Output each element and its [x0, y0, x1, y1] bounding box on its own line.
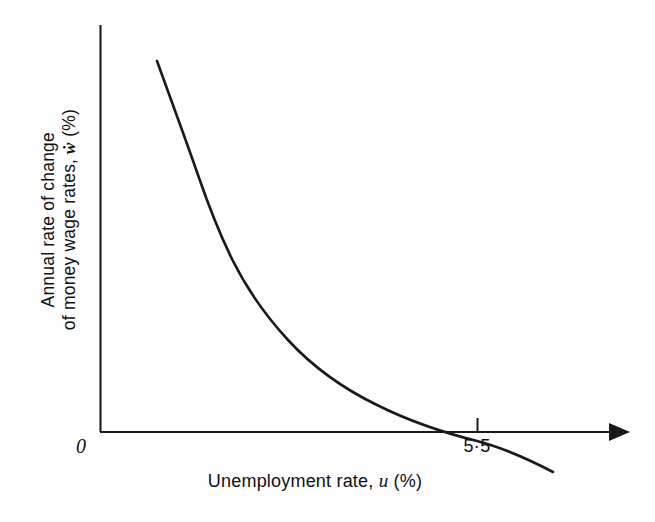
phillips-curve-line — [157, 61, 553, 472]
chart-canvas — [0, 0, 655, 522]
phillips-curve-figure: Annual rate of change of money wage rate… — [0, 0, 655, 522]
arrow-right-icon — [609, 423, 630, 441]
